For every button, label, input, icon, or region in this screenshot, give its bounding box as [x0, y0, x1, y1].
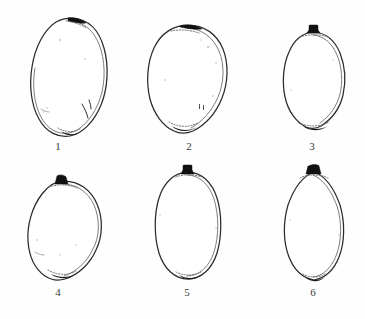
specimen-plate: 1 2 3 4 5 6 — [0, 0, 365, 319]
specimen-2-drawing — [148, 25, 227, 133]
specimen-5-drawing — [155, 165, 221, 279]
specimen-label-6: 6 — [303, 286, 323, 298]
plate-drawing — [0, 0, 365, 319]
specimen-label-1: 1 — [48, 140, 68, 152]
specimen-4-drawing — [28, 175, 102, 280]
specimen-label-4: 4 — [48, 286, 68, 298]
specimen-1-drawing — [31, 18, 107, 137]
specimen-label-5: 5 — [177, 286, 197, 298]
specimen-label-2: 2 — [179, 140, 199, 152]
specimen-6-drawing — [284, 165, 343, 282]
specimen-3-drawing — [283, 25, 344, 130]
specimen-label-3: 3 — [302, 140, 322, 152]
